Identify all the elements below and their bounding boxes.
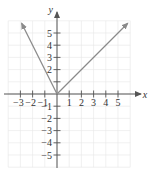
piecewise-function-graph: −3−2−1123455432−1−2−3−4−5xy	[0, 0, 149, 176]
y-tick-label: 4	[47, 40, 52, 51]
x-tick-label: 3	[91, 97, 96, 108]
y-tick-label: −4	[41, 137, 52, 148]
y-tick-label: −3	[41, 125, 52, 136]
function-curves	[22, 23, 128, 94]
right-branch-line	[57, 23, 128, 94]
x-axis-label: x	[142, 89, 148, 100]
x-tick-label: −3	[13, 97, 24, 108]
y-tick-label: −5	[41, 150, 52, 161]
axes	[4, 12, 141, 168]
x-tick-label: 5	[116, 97, 121, 108]
x-tick-label: 2	[79, 97, 84, 108]
y-axis-label: y	[48, 4, 54, 15]
y-tick-label: −2	[41, 113, 52, 124]
x-tick-label: −2	[25, 97, 36, 108]
y-tick-label: 5	[47, 28, 52, 39]
y-tick-label: −1	[41, 101, 52, 112]
y-tick-label: 3	[47, 52, 52, 63]
x-tick-label: 4	[103, 97, 108, 108]
axis-labels: −3−2−1123455432−1−2−3−4−5xy	[13, 4, 148, 161]
x-tick-label: 1	[67, 97, 72, 108]
y-tick-label: 2	[47, 64, 52, 75]
